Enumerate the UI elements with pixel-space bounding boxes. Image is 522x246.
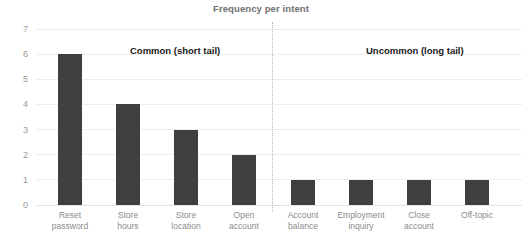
x-axis-label-1-line-0: Store <box>95 210 161 221</box>
x-axis-label-7-line-0: Off-topic <box>444 210 510 221</box>
annotation-common: Common (short tail) <box>130 45 220 57</box>
x-axis-label-4-line-1: balance <box>270 221 336 232</box>
gridline-3 <box>36 129 522 130</box>
x-axis-label-4-line-0: Account <box>270 210 336 221</box>
annotation-uncommon-line2: (long tail) <box>421 45 464 56</box>
y-tick-label-5: 5 <box>0 74 28 84</box>
annotation-uncommon: Uncommon (long tail) <box>366 45 464 57</box>
gridline-7 <box>36 29 522 30</box>
x-axis-label-5: Employmentinquiry <box>328 210 394 231</box>
bar-7[interactable] <box>465 180 489 205</box>
x-axis-label-3-line-0: Open <box>211 210 277 221</box>
x-axis-label-2: Storelocation <box>153 210 219 231</box>
bar-2[interactable] <box>174 130 198 205</box>
gridline-0 <box>36 205 522 206</box>
y-tick-label-6: 6 <box>0 49 28 59</box>
x-axis-label-6-line-1: account <box>386 221 452 232</box>
x-axis-label-5-line-0: Employment <box>328 210 394 221</box>
bar-4[interactable] <box>291 180 315 205</box>
annotation-common-line2: (short tail) <box>174 45 220 56</box>
gridline-4 <box>36 104 522 105</box>
group-divider-line <box>272 22 273 212</box>
x-axis-label-5-line-1: inquiry <box>328 221 394 232</box>
y-tick-label-4: 4 <box>0 99 28 109</box>
chart-title: Frequency per intent <box>0 3 522 15</box>
y-tick-label-1: 1 <box>0 175 28 185</box>
bar-6[interactable] <box>407 180 431 205</box>
bar-1[interactable] <box>116 104 140 205</box>
x-axis-label-1: Storehours <box>95 210 161 231</box>
y-tick-label-3: 3 <box>0 125 28 135</box>
bar-5[interactable] <box>349 180 373 205</box>
x-axis-label-0-line-1: password <box>37 221 103 232</box>
x-axis-label-4: Accountbalance <box>270 210 336 231</box>
y-tick-label-7: 7 <box>0 24 28 34</box>
x-axis-label-0-line-0: Reset <box>37 210 103 221</box>
x-axis-label-0: Resetpassword <box>37 210 103 231</box>
gridline-1 <box>36 179 522 180</box>
gridline-5 <box>36 79 522 80</box>
x-axis-label-2-line-1: location <box>153 221 219 232</box>
bar-0[interactable] <box>58 54 82 205</box>
gridline-2 <box>36 154 522 155</box>
bar-3[interactable] <box>232 155 256 205</box>
x-axis-label-3: Openaccount <box>211 210 277 231</box>
annotation-uncommon-line1: Uncommon <box>366 45 418 56</box>
annotation-common-line1: Common <box>130 45 171 56</box>
x-axis-label-3-line-1: account <box>211 221 277 232</box>
y-tick-label-2: 2 <box>0 150 28 160</box>
x-axis-label-1-line-1: hours <box>95 221 161 232</box>
bar-chart: Frequency per intent Common (short tail)… <box>0 0 522 246</box>
x-axis-label-6-line-0: Close <box>386 210 452 221</box>
x-axis-label-6: Closeaccount <box>386 210 452 231</box>
y-tick-label-0: 0 <box>0 200 28 210</box>
x-axis-label-2-line-0: Store <box>153 210 219 221</box>
x-axis-label-7: Off-topic <box>444 210 510 221</box>
